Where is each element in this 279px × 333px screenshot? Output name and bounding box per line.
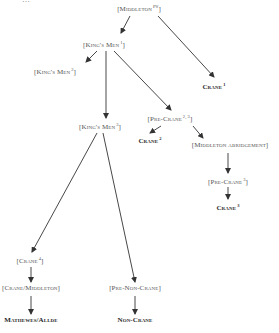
node-label: Non-Crane [117,316,152,324]
node-label: [Pre-Crane [148,115,182,123]
node-superscript: 1 [223,82,225,87]
node-bracket-close: ] [246,178,248,186]
edge-kings-men-1-to-pre-crane-23 [114,51,171,110]
node-label: Crane [138,137,158,145]
node-non-crane: Non-Crane [117,316,152,325]
node-kings-men-2: [King's Men2] [34,65,76,77]
edge-middleton-pw-to-kings-men-1 [121,16,130,33]
node-mathewes-allde: Mathewes/Allde [4,316,58,325]
node-kings-men-1: [King's Men1] [83,38,125,50]
node-pre-non-crane: [Pre-Non-Crane] [109,284,161,293]
node-bracket-close: ] [122,41,124,49]
node-crane-1: Crane1 [202,80,225,92]
node-label: Mathewes/Allde [4,316,58,324]
edge-pre-crane-23-to-crane-2 [150,126,161,133]
node-pre-crane-3: [Pre-Crane3] [208,175,248,187]
node-crane-3: Crane3 [216,201,239,213]
node-label: [King's Men [83,41,119,49]
node-label: [King's Men [79,123,115,131]
node-middleton-pw: [MiddletonPw] [117,2,161,14]
node-bracket-close: ] [73,68,75,76]
node-bracket-close: ] [41,257,43,265]
node-crane-2: Crane2 [138,134,161,146]
node-crane-4: [Crane4] [16,254,43,266]
node-label: [King's Men [34,68,70,76]
node-label: [Pre-Crane [208,178,242,186]
node-bracket-close: ] [118,123,120,131]
node-kings-men-3: [King's Men3] [79,120,121,132]
node-pre-crane-23: [Pre-Crane2, 3] [148,112,193,124]
node-label: [Pre-Non-Crane] [109,284,161,292]
node-superscript: 2 [159,136,161,141]
node-label: [Crane [16,257,37,265]
edge-kings-men-1-to-kings-men-2 [86,51,97,62]
node-label: [Crane/Middleton] [2,284,60,292]
edge-middleton-pw-to-crane-1 [158,16,214,77]
node-label: [Middleton abridgement] [192,141,269,149]
node-label: Crane [202,83,222,91]
node-label: [Middleton [117,5,152,13]
node-bracket-close: ] [190,115,192,123]
edge-kings-men-3-to-crane-4 [32,133,97,252]
node-bracket-close: ] [158,5,160,13]
node-middleton-abridgement: [Middleton abridgement] [192,141,269,150]
node-superscript: 3 [237,203,239,208]
node-label: Crane [216,204,236,212]
edge-kings-men-3-to-pre-non-crane [103,133,135,282]
edge-pre-crane-23-to-middleton-abridgement [193,126,203,138]
node-crane-middleton: [Crane/Middleton] [2,284,60,293]
